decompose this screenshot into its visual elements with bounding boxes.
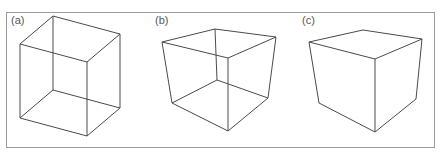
cube-b xyxy=(162,29,276,131)
cube-a xyxy=(20,16,120,136)
cube-c xyxy=(309,30,422,132)
cubes-drawing xyxy=(0,0,441,156)
